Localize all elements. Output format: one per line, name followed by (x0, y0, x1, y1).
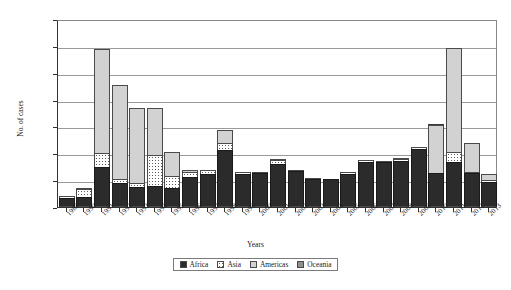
bar-segment-americas[interactable] (147, 108, 163, 156)
bar-segment-americas[interactable] (129, 108, 145, 183)
bar-segment-africa[interactable] (376, 162, 392, 207)
legend-swatch-icon (217, 261, 224, 268)
bar-group[interactable] (164, 152, 180, 207)
bar-segment-asia[interactable] (94, 153, 110, 168)
bar-group[interactable] (411, 147, 427, 207)
legend-swatch-icon (297, 261, 304, 268)
bar-series-container (58, 21, 496, 207)
bar-group[interactable] (129, 108, 145, 207)
bar-segment-americas[interactable] (164, 152, 180, 178)
bar-group[interactable] (464, 143, 480, 207)
bar-group[interactable] (235, 172, 251, 207)
bar-segment-africa[interactable] (428, 173, 444, 207)
bar-group[interactable] (358, 160, 374, 207)
bar-group[interactable] (376, 161, 392, 207)
bar-group[interactable] (94, 49, 110, 207)
bar-group[interactable] (147, 108, 163, 207)
bar-segment-africa[interactable] (411, 149, 427, 207)
legend-label: Africa (190, 261, 209, 268)
bar-segment-americas[interactable] (94, 49, 110, 154)
y-axis-title: No. of cases (16, 79, 25, 159)
bar-segment-asia[interactable] (147, 155, 163, 187)
bar-group[interactable] (182, 170, 198, 207)
legend-item-americas[interactable]: Americas (250, 261, 288, 268)
bar-group[interactable] (252, 172, 268, 207)
bar-group[interactable] (340, 172, 356, 207)
bar-segment-africa[interactable] (200, 174, 216, 207)
legend-label: Americas (260, 261, 288, 268)
bar-segment-africa[interactable] (94, 167, 110, 207)
bar-segment-africa[interactable] (217, 150, 233, 207)
bar-segment-africa[interactable] (358, 162, 374, 207)
plot-area (57, 20, 497, 208)
bar-segment-africa[interactable] (235, 174, 251, 207)
legend-item-africa[interactable]: Africa (180, 261, 209, 268)
bar-segment-africa[interactable] (393, 161, 409, 207)
bar-segment-americas[interactable] (112, 85, 128, 180)
bar-group[interactable] (393, 158, 409, 207)
bar-group[interactable] (270, 159, 286, 207)
legend-label: Asia (227, 261, 241, 268)
bar-segment-americas[interactable] (464, 143, 480, 174)
bar-group[interactable] (481, 174, 497, 207)
legend-label: Oceania (307, 261, 331, 268)
legend-item-asia[interactable]: Asia (217, 261, 241, 268)
bar-group[interactable] (217, 130, 233, 207)
bar-segment-americas[interactable] (217, 130, 233, 143)
bar-segment-africa[interactable] (252, 173, 268, 207)
chart-figure: No. of cases 0100 000200 000300 000400 0… (0, 0, 511, 290)
x-axis-title: Years (0, 240, 511, 249)
bar-segment-americas[interactable] (446, 48, 462, 152)
legend-swatch-icon (180, 261, 187, 268)
legend-item-oceania[interactable]: Oceania (297, 261, 331, 268)
bar-group[interactable] (200, 170, 216, 207)
chart-legend: AfricaAsiaAmericasOceania (173, 258, 339, 271)
legend-swatch-icon (250, 261, 257, 268)
bar-segment-africa[interactable] (288, 171, 304, 207)
bar-segment-africa[interactable] (464, 173, 480, 207)
bar-segment-africa[interactable] (270, 164, 286, 208)
y-axis-tick-mark (53, 208, 57, 209)
bar-segment-africa[interactable] (446, 162, 462, 207)
bar-group[interactable] (428, 124, 444, 207)
bar-group[interactable] (288, 170, 304, 207)
bar-group[interactable] (112, 85, 128, 207)
bar-group[interactable] (446, 48, 462, 207)
bar-segment-americas[interactable] (428, 125, 444, 173)
